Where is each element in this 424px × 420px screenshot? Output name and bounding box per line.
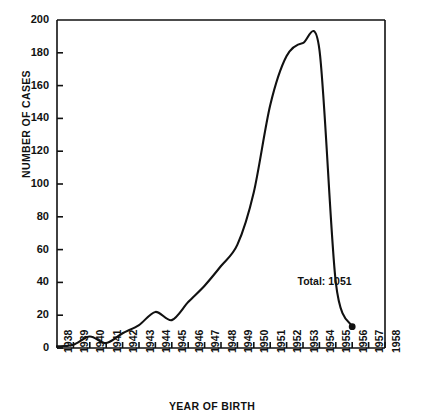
x-tick-label: 1948 [226,330,238,353]
y-tick-label: 120 [15,144,49,156]
y-tick-label: 160 [15,79,49,91]
y-axis-ticks [57,53,63,348]
x-tick-label: 1953 [308,330,320,353]
total-annotation: Total: 1051 [298,275,352,287]
x-tick-label: 1956 [357,330,369,353]
x-tick-label: 1958 [390,330,402,353]
y-tick-label: 20 [15,308,49,320]
chart-figure: NUMBER OF CASES YEAR OF BIRTH 0204060801… [0,0,424,420]
y-tick-label: 140 [15,111,49,123]
plot-frame [57,20,385,348]
data-series-line [57,31,352,346]
x-tick-label: 1941 [111,330,123,353]
x-tick-label: 1955 [340,330,352,353]
x-tick-label: 1945 [176,330,188,353]
y-tick-label: 80 [15,210,49,222]
x-tick-label: 1940 [94,330,106,353]
x-tick-label: 1944 [160,330,172,353]
y-tick-label: 180 [15,46,49,58]
x-tick-label: 1939 [78,330,90,353]
x-tick-label: 1942 [127,330,139,353]
chart-canvas [0,0,424,420]
x-tick-label: 1946 [193,330,205,353]
x-axis-title: YEAR OF BIRTH [0,400,424,412]
y-tick-label: 60 [15,243,49,255]
y-tick-label: 0 [15,341,49,353]
x-tick-label: 1949 [242,330,254,353]
y-tick-label: 40 [15,275,49,287]
x-tick-label: 1950 [258,330,270,353]
x-tick-label: 1938 [62,330,74,353]
x-tick-label: 1947 [209,330,221,353]
y-tick-label: 200 [15,13,49,25]
x-tick-label: 1952 [291,330,303,353]
x-tick-label: 1943 [144,330,156,353]
y-tick-label: 100 [15,177,49,189]
y-axis-title: NUMBER OF CASES [20,54,32,194]
x-tick-label: 1951 [275,330,287,353]
x-tick-label: 1957 [373,330,385,353]
x-tick-label: 1954 [324,330,336,353]
